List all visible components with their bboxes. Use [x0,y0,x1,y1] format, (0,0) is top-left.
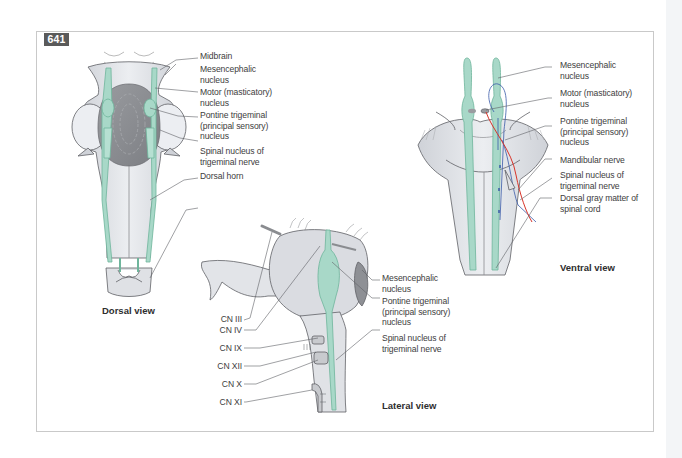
lateral-label-cn-xii: CN XII [206,361,242,372]
ventral-label-pontine-trigeminal-nucleus: Pontine trigeminal (principal sensory) n… [560,116,628,148]
lateral-label-cn-x: CN X [206,379,242,390]
lateral-label-cn-xi: CN XI [206,397,242,408]
lateral-label-pontine-trigeminal-nucleus: Pontine trigeminal (principal sensory) n… [382,296,450,328]
lateral-label-mesencephalic-nucleus: Mesencephalic nucleus [382,273,438,294]
ventral-label-mesencephalic-nucleus: Mesencephalic nucleus [560,60,616,81]
dorsal-label-mesencephalic-nucleus: Mesencephalic nucleus [200,64,256,85]
dorsal-label-midbrain: Midbrain [200,51,232,62]
dorsal-label-motor-nucleus: Motor (masticatory) nucleus [200,87,272,108]
lateral-label-spinal-nucleus: Spinal nucleus of trigeminal nerve [382,333,446,354]
ventral-label-motor-nucleus: Motor (masticatory) nucleus [560,88,632,109]
ventral-label-spinal-nucleus: Spinal nucleus of trigeminal nerve [560,170,624,191]
ventral-view-drawing [418,58,548,275]
ventral-label-mandibular-nerve: Mandibular nerve [560,155,625,166]
lateral-label-cn-iv: CN IV [206,325,242,336]
lateral-view-title: Lateral view [382,400,436,411]
lateral-label-cn-iii: CN III [206,314,242,325]
dorsal-view-drawing [72,52,186,297]
ventral-view-title: Ventral view [560,262,615,273]
ventral-label-dorsal-gray-matter: Dorsal gray matter of spinal cord [560,193,638,214]
lateral-label-cn-ix: CN IX [206,343,242,354]
dorsal-label-dorsal-horn: Dorsal horn [200,171,243,182]
dorsal-label-pontine-trigeminal-nucleus: Pontine trigeminal (principal sensory) n… [200,110,268,142]
dorsal-label-spinal-nucleus: Spinal nucleus of trigeminal nerve [200,146,264,167]
dorsal-view-title: Dorsal view [102,305,155,316]
